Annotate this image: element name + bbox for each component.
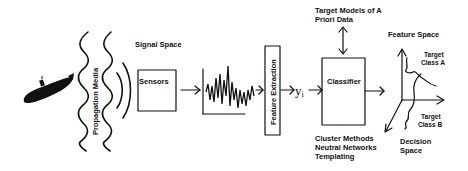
propagation-wave-left — [78, 32, 88, 151]
classifier-label: Classifier — [327, 77, 361, 86]
target-class-a-label-line2: Class A — [421, 59, 445, 66]
target-class-b-label-line2: Class B — [418, 121, 442, 128]
decision-space-label-line2: Space — [400, 146, 422, 155]
arrow-yi-to-classifier — [309, 86, 322, 94]
classification-diagram: Propagation Media Signal Space Sensors F… — [0, 0, 468, 171]
signal-arc-outer — [123, 63, 131, 118]
feature-vector-label: yi — [295, 83, 305, 99]
signal-space-label: Signal Space — [135, 40, 182, 49]
arrow-sensors-to-signal — [181, 86, 200, 94]
submarine-icon — [24, 73, 74, 103]
methods-label-line2: Neutral Networks — [315, 143, 377, 152]
sensors-label: Sensors — [139, 77, 169, 86]
methods-label-line3: Templating — [315, 152, 355, 161]
waveform-plot-icon — [203, 66, 254, 114]
decision-space-label-line1: Decision — [400, 137, 432, 146]
double-arrow-models-classifier — [339, 27, 347, 54]
propagation-wave-right — [102, 32, 112, 151]
feature-extraction-label: Feature Extraction — [269, 59, 278, 125]
target-class-b-label-line1: Target — [421, 113, 441, 121]
target-models-label-line1: Target Models of A — [315, 6, 382, 15]
propagation-media-label: Propagation Media — [91, 67, 100, 135]
classifier-box — [322, 58, 365, 125]
methods-label-line1: Cluster Methods — [315, 134, 374, 143]
arrow-classifier-to-feature-space — [365, 87, 384, 95]
arrow-features-to-yi — [281, 86, 294, 94]
target-models-label-line2: Priori Data — [315, 15, 354, 24]
feature-space-label: Feature Space — [388, 30, 439, 39]
signal-arc-inner — [117, 73, 122, 108]
arrow-signal-to-features — [256, 86, 263, 94]
target-class-a-label-line1: Target — [424, 51, 444, 59]
